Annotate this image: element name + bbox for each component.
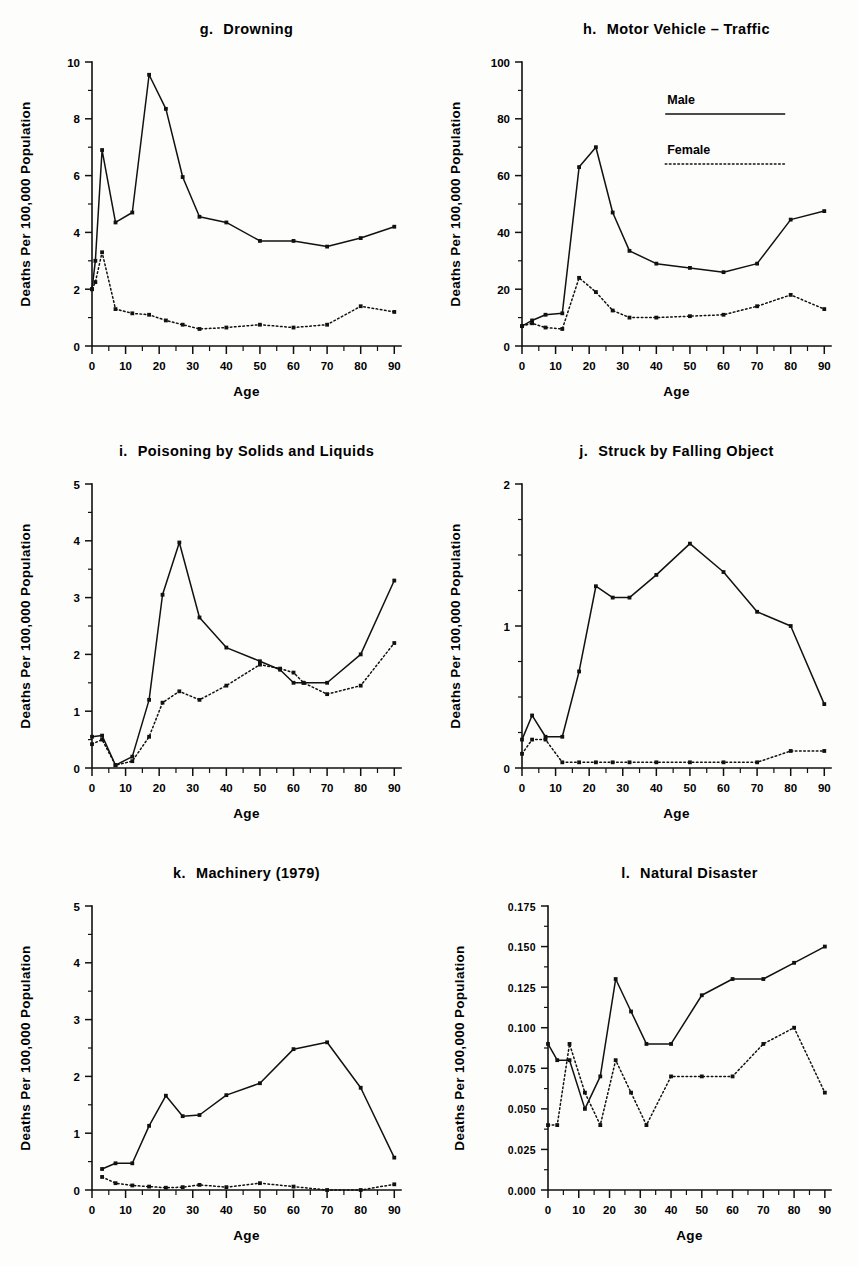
y-tick-label: 0.175 xyxy=(508,901,536,913)
panel-title-group: j.Struck by Falling Object xyxy=(578,443,773,459)
x-tick-label: 40 xyxy=(665,1204,678,1216)
x-tick-label: 40 xyxy=(220,1204,233,1216)
y-tick-label: 0 xyxy=(74,341,80,353)
x-axis-label: Age xyxy=(676,1228,703,1243)
series-markers-male xyxy=(520,542,826,742)
chart-panel-h: h.Motor Vehicle – Traffic020406080100010… xyxy=(430,0,859,422)
x-tick-label: 20 xyxy=(583,360,596,372)
y-axis-ticks: 0.0000.0250.0500.0750.1000.1250.1500.175 xyxy=(508,901,548,1197)
panel-title-group: l.Natural Disaster xyxy=(621,865,757,881)
y-tick-label: 0 xyxy=(74,1185,80,1197)
x-tick-label: 60 xyxy=(717,360,730,372)
y-tick-label: 80 xyxy=(497,113,510,125)
x-tick-label: 90 xyxy=(388,1204,401,1216)
series-markers-female xyxy=(520,738,826,765)
x-tick-label: 80 xyxy=(788,1204,801,1216)
series-line-male xyxy=(92,75,394,289)
x-tick-label: 30 xyxy=(616,360,629,372)
y-tick-label: 60 xyxy=(497,170,510,182)
y-tick-label: 5 xyxy=(74,901,81,913)
series-line-female xyxy=(522,740,824,763)
chart-panel-l: l.Natural Disaster0.0000.0250.0500.0750.… xyxy=(430,844,859,1266)
series-markers-male xyxy=(100,1040,396,1170)
x-axis-ticks: 0102030405060708090 xyxy=(89,768,401,794)
x-axis-label: Age xyxy=(233,1228,260,1243)
x-tick-label: 30 xyxy=(634,1204,647,1216)
y-axis-ticks: 012345 xyxy=(74,901,92,1197)
x-tick-label: 90 xyxy=(818,360,831,372)
chart-panel-k: k.Machinery (1979)0123450102030405060708… xyxy=(0,844,430,1266)
series-line-female xyxy=(102,1177,394,1190)
y-tick-label: 1 xyxy=(74,1128,81,1140)
x-tick-label: 0 xyxy=(89,782,95,794)
x-tick-label: 70 xyxy=(321,782,334,794)
y-tick-label: 100 xyxy=(491,57,510,69)
x-tick-label: 20 xyxy=(153,782,166,794)
x-tick-label: 80 xyxy=(354,360,367,372)
x-tick-label: 60 xyxy=(287,1204,300,1216)
y-tick-label: 40 xyxy=(497,227,510,239)
x-axis-label: Age xyxy=(663,384,690,399)
panel-grid: g.Drowning02468100102030405060708090AgeD… xyxy=(0,0,859,1266)
x-tick-label: 50 xyxy=(254,360,267,372)
series-line-female xyxy=(92,643,394,765)
x-tick-label: 0 xyxy=(89,1204,95,1216)
x-tick-label: 50 xyxy=(254,1204,267,1216)
panel-title-group: i.Poisoning by Solids and Liquids xyxy=(119,443,374,459)
x-tick-label: 70 xyxy=(321,360,334,372)
x-tick-label: 0 xyxy=(519,782,525,794)
y-tick-label: 0 xyxy=(74,763,80,775)
y-tick-label: 0.100 xyxy=(508,1022,536,1034)
y-tick-label: 0.050 xyxy=(508,1103,536,1115)
x-axis-ticks: 0102030405060708090 xyxy=(89,1190,401,1216)
axis-lines xyxy=(92,484,401,768)
x-tick-label: 90 xyxy=(388,360,401,372)
y-axis-label: Deaths Per 100,000 Population xyxy=(18,101,33,306)
y-axis-ticks: 0246810 xyxy=(67,57,92,353)
y-tick-label: 0.150 xyxy=(508,941,536,953)
chart-panel-i: i.Poisoning by Solids and Liquids0123450… xyxy=(0,422,430,844)
x-tick-label: 10 xyxy=(119,360,132,372)
y-tick-label: 2 xyxy=(74,1071,80,1083)
legend: MaleFemale xyxy=(665,93,785,164)
y-tick-label: 3 xyxy=(74,592,80,604)
series-line-male xyxy=(548,947,825,1109)
x-tick-label: 80 xyxy=(784,782,797,794)
x-tick-label: 90 xyxy=(818,1204,831,1216)
y-tick-label: 2 xyxy=(74,649,80,661)
x-tick-label: 30 xyxy=(186,360,199,372)
x-axis-ticks: 0102030405060708090 xyxy=(519,768,831,794)
x-tick-label: 70 xyxy=(757,1204,770,1216)
x-tick-label: 20 xyxy=(583,782,596,794)
x-tick-label: 80 xyxy=(354,782,367,794)
x-tick-label: 10 xyxy=(549,782,562,794)
x-tick-label: 0 xyxy=(89,360,95,372)
legend-label-female: Female xyxy=(667,143,710,157)
axis-lines xyxy=(548,906,831,1190)
legend-label-male: Male xyxy=(667,93,695,107)
x-tick-label: 50 xyxy=(254,782,267,794)
x-tick-label: 70 xyxy=(321,1204,334,1216)
x-tick-label: 40 xyxy=(650,360,663,372)
y-tick-label: 0.025 xyxy=(508,1144,536,1156)
y-tick-label: 0.125 xyxy=(508,982,536,994)
x-tick-label: 30 xyxy=(186,782,199,794)
y-axis-label: Deaths Per 100,000 Population xyxy=(18,523,33,728)
y-tick-label: 2 xyxy=(74,284,80,296)
y-tick-label: 8 xyxy=(74,113,81,125)
y-tick-label: 1 xyxy=(74,706,81,718)
x-tick-label: 20 xyxy=(603,1204,616,1216)
x-tick-label: 10 xyxy=(119,782,132,794)
series-line-female xyxy=(92,252,394,329)
panel-title: h.Motor Vehicle – Traffic xyxy=(583,21,770,37)
x-tick-label: 10 xyxy=(119,1204,132,1216)
y-axis-ticks: 020406080100 xyxy=(491,57,522,353)
x-tick-label: 80 xyxy=(784,360,797,372)
x-tick-label: 40 xyxy=(220,360,233,372)
chart-panel-g: g.Drowning02468100102030405060708090AgeD… xyxy=(0,0,430,422)
y-axis-label: Deaths Per 100,000 Population xyxy=(18,945,33,1150)
x-tick-label: 50 xyxy=(684,782,697,794)
y-tick-label: 0 xyxy=(504,341,510,353)
series-markers-male xyxy=(546,945,827,1111)
y-tick-label: 1 xyxy=(504,621,511,633)
